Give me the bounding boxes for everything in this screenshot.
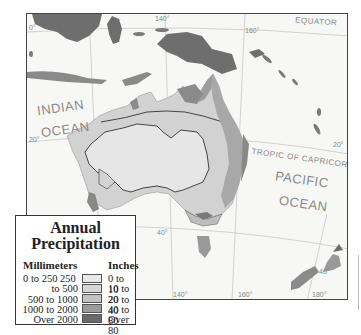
lon-160-top-tick: 160°	[245, 27, 259, 34]
legend: Annual Precipitation Millimeters Inches …	[15, 215, 136, 325]
legend-in-header: Inches	[108, 259, 139, 271]
lon-140-top-tick: 140°	[155, 15, 169, 22]
legend-swatch-5	[82, 314, 102, 323]
legend-swatch-1	[82, 274, 102, 283]
lat-40-tick: 40°	[157, 229, 168, 236]
legend-in-row-5: Over 80	[108, 314, 135, 335]
lat-40-right-tick: 40°	[319, 268, 330, 275]
legend-title-line2: Precipitation	[16, 236, 135, 252]
legend-swatch-3	[82, 294, 102, 303]
page-edge-line	[358, 255, 359, 310]
legend-mm-row-2: to 500	[51, 283, 78, 294]
legend-title-line1: Annual	[16, 220, 135, 236]
lon-160-tick: 160°	[238, 291, 252, 298]
legend-mm-row-5: Over 2000	[33, 314, 78, 325]
lon-140-tick: 140°	[173, 291, 187, 298]
legend-swatch-2	[82, 284, 102, 293]
lat-20-right-tick: 20°	[333, 141, 344, 148]
lat-0-tick: 0°	[29, 24, 36, 31]
legend-swatch-4	[82, 304, 102, 313]
legend-mm-header: Millimeters	[23, 259, 77, 271]
lat-20-left-tick: 20°	[29, 136, 40, 143]
lon-180-tick: 180°	[312, 291, 326, 298]
